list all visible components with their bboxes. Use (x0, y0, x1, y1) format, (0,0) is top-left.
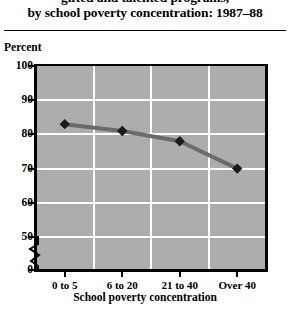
data-point-marker (117, 126, 127, 136)
chart-plot: 10090807060500 0 to 56 to 2021 to 40Over… (0, 0, 290, 309)
series-line (65, 124, 238, 168)
data-point-marker (60, 119, 70, 129)
data-series-layer (0, 0, 290, 309)
